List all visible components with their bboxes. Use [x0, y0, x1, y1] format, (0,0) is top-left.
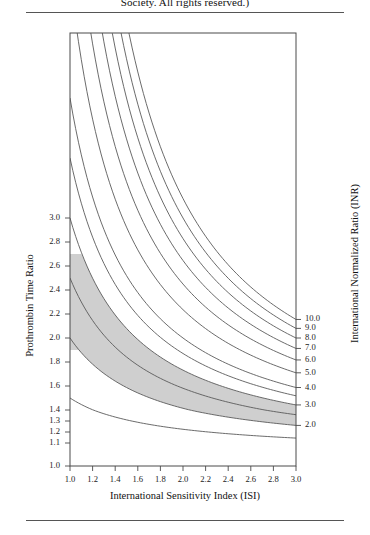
y-tick-label-left: 2.8	[34, 236, 60, 246]
y-tick-label-left: 1.4	[34, 404, 60, 414]
y-tick-label-right: 5.0	[305, 367, 335, 377]
y-tick-label-right: 9.0	[305, 322, 335, 332]
y-tick-label-left: 3.0	[34, 212, 60, 222]
x-tick-label: 3.0	[283, 474, 309, 484]
y-tick-label-left: 1.8	[34, 356, 60, 366]
figure-panel: Society. All rights reserved.) Prothromb…	[0, 0, 370, 535]
y-tick-label-left: 1.1	[34, 437, 60, 447]
y-tick-label-right: 2.0	[305, 419, 335, 429]
y-tick-label-left: 2.4	[34, 284, 60, 294]
y-tick-label-right: 8.0	[305, 332, 335, 342]
y-tick-label-left: 1.3	[34, 415, 60, 425]
y-tick-label-left: 2.6	[34, 260, 60, 270]
y-tick-label-right: 4.0	[305, 382, 335, 392]
y-tick-label-left: 1.0	[34, 460, 60, 470]
y-tick-label-right: 6.0	[305, 354, 335, 364]
y-axis-title-right: International Normalized Ratio (INR)	[349, 154, 360, 374]
y-tick-label-right: 7.0	[305, 342, 335, 352]
iso-inr-line	[70, 0, 296, 319]
y-tick-label-right: 3.0	[305, 399, 335, 409]
y-tick-label-left: 1.2	[34, 426, 60, 436]
therapeutic-range-band	[70, 254, 296, 425]
y-axis-title-left: Prothrombin Time Ratio	[24, 231, 35, 381]
therapeutic-range-polygon	[70, 254, 296, 425]
iso-inr-line	[70, 0, 296, 338]
y-tick-label-left: 1.6	[34, 380, 60, 390]
x-axis-title: International Sensitivity Index (ISI)	[0, 490, 370, 501]
y-tick-label-left: 2.0	[34, 332, 60, 342]
y-tick-label-left: 2.2	[34, 308, 60, 318]
